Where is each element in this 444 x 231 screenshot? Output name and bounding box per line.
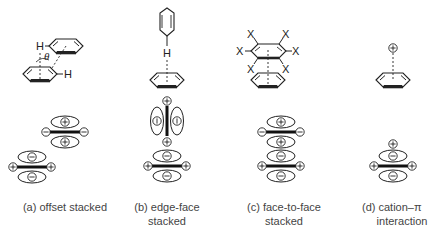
molecule-b: H (150, 8, 184, 87)
substituent-x-label: X (282, 28, 290, 40)
caption-d-line-1: (d) cation–π (362, 200, 442, 214)
caption-b-line-1: (b) edge-face (122, 200, 212, 214)
quadrupole-upper (42, 116, 88, 148)
molecule-c: X X X X X X (236, 28, 300, 87)
caption-a-line-1: (a) offset stacked (10, 200, 120, 214)
substituent-x-label: X (247, 28, 255, 40)
caption-b: (b) edge-face stacked (122, 200, 212, 228)
substituent-x-label: X (247, 63, 255, 75)
panel-b-edge-face-stacked: H (144, 8, 190, 182)
caption-c-line-1: (c) face-to-face (234, 200, 334, 214)
caption-a: (a) offset stacked (10, 200, 120, 214)
quadrupole-horizontal (144, 150, 190, 182)
hydrogen-label: H (64, 68, 72, 80)
substituent-x-label: X (292, 45, 300, 57)
caption-d-line-2: interaction (362, 214, 442, 228)
pi-interaction-diagram: H H θ H (0, 0, 444, 231)
cation-icon (389, 44, 397, 52)
hydrogen-label: H (163, 47, 171, 59)
substituent-x-label: X (236, 45, 244, 57)
substituent-x-label: X (282, 63, 290, 75)
panel-a-offset-stacked: H H θ (9, 39, 88, 183)
quadrupole-vertical (151, 97, 184, 146)
quadrupole-upper (258, 116, 304, 148)
panel-c-face-to-face-stacked: X X X X X X (236, 28, 304, 182)
quadrupole-lower (9, 151, 55, 183)
quadrupole (370, 150, 416, 182)
molecule-a: H H θ (23, 39, 83, 81)
theta-angle-label: θ (44, 50, 50, 62)
caption-c: (c) face-to-face stacked (234, 200, 334, 228)
panel-d-cation-pi (370, 44, 416, 182)
cation-icon (389, 140, 397, 148)
caption-b-line-2: stacked (122, 214, 212, 228)
hydrogen-label: H (36, 40, 44, 52)
caption-d: (d) cation–π interaction (362, 200, 442, 228)
quadrupole-lower (258, 150, 304, 182)
caption-c-line-2: stacked (234, 214, 334, 228)
